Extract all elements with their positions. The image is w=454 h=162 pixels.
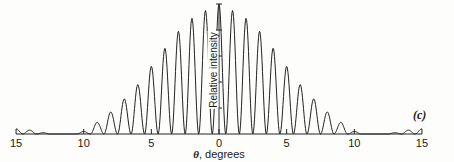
- x-tick-label: 5: [284, 137, 290, 149]
- x-axis-ticks: [16, 129, 422, 134]
- x-tick-label: 15: [416, 137, 428, 149]
- x-tick-label: 10: [78, 137, 90, 149]
- x-axis-label: θ, degrees: [193, 148, 245, 160]
- x-tick-label: 5: [148, 137, 154, 149]
- diffraction-pattern-plot: [0, 0, 454, 162]
- panel-label: (c): [413, 108, 426, 123]
- x-tick-label: 15: [10, 137, 22, 149]
- x-tick-label: 10: [348, 137, 360, 149]
- y-axis-label: Relative intensity: [208, 31, 219, 109]
- x-axis-label-text: , degrees: [199, 148, 245, 160]
